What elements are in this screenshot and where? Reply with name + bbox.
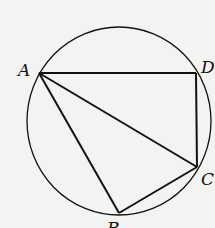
label-B: B <box>106 218 120 228</box>
segment-DC <box>196 73 197 167</box>
segment-AB <box>39 73 119 213</box>
geometry-diagram: A D C B <box>0 0 215 228</box>
label-A: A <box>16 60 30 80</box>
segment-AC <box>39 73 197 167</box>
label-D: D <box>200 57 215 77</box>
label-C: C <box>201 169 214 189</box>
